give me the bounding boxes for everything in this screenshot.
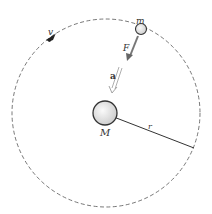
orbit-diagram: v r M m F a xyxy=(0,0,212,214)
force-arrow-shaft xyxy=(130,36,138,56)
large-mass-label: M xyxy=(99,127,111,138)
accel-arrow-shaft-2 xyxy=(115,68,122,89)
velocity-label: v xyxy=(48,27,53,37)
force-arrow-icon xyxy=(126,53,133,61)
large-mass-M xyxy=(93,101,117,125)
radius-line xyxy=(106,114,194,148)
accel-label: a xyxy=(110,71,116,81)
radius-label: r xyxy=(148,122,153,131)
force-label: F xyxy=(122,43,130,53)
small-mass-label: m xyxy=(136,16,145,26)
